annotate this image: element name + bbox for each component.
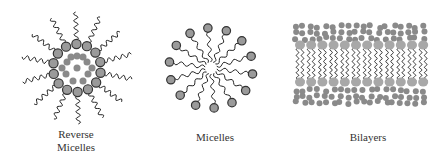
reverse-micelles-label: Reverse Micelles xyxy=(36,128,116,154)
micelles-label: Micelles xyxy=(175,131,255,144)
label-line-1: Reverse xyxy=(36,128,116,141)
reverse-micelle-illustration xyxy=(22,12,132,124)
micelle-illustration xyxy=(165,24,256,112)
label-line-2: Micelles xyxy=(36,141,116,154)
bilayer-illustration xyxy=(292,22,428,107)
bilayers-label: Bilayers xyxy=(318,131,418,144)
